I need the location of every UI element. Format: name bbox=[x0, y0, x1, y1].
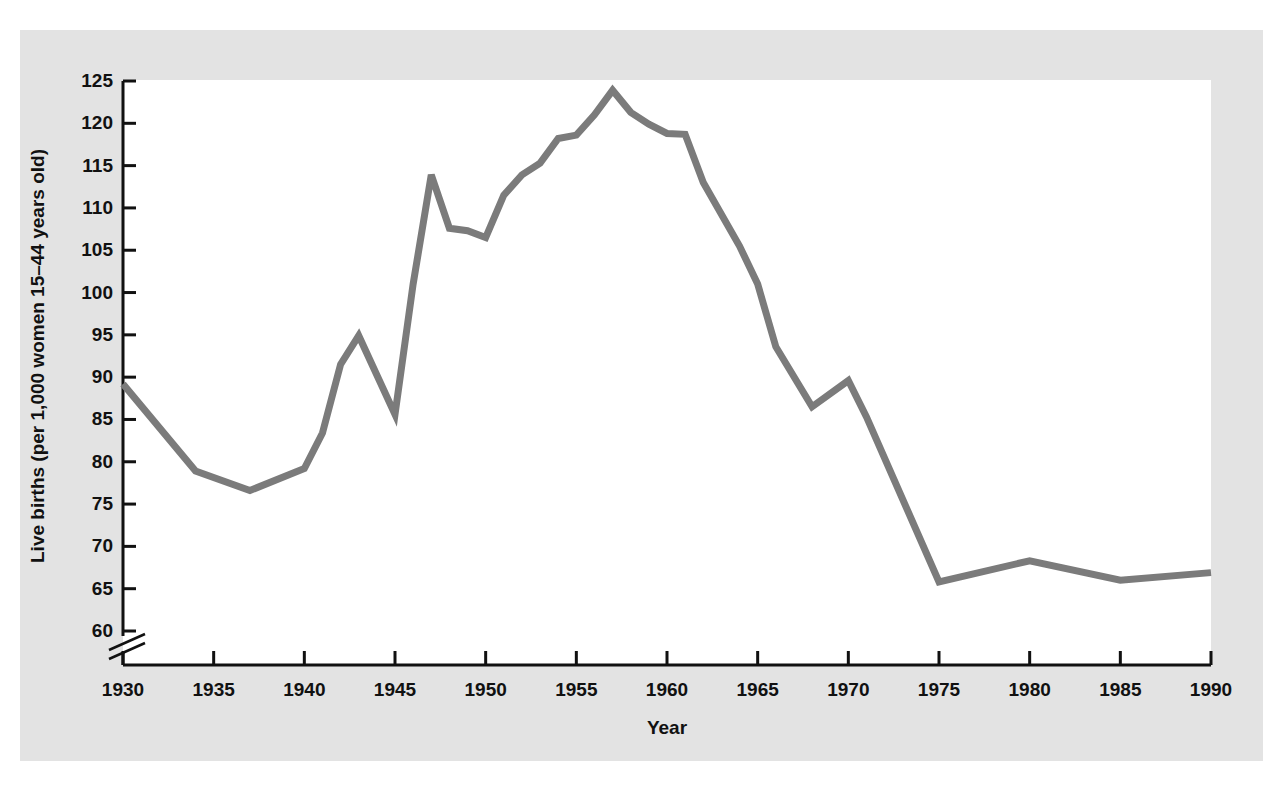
y-tick-label: 105 bbox=[61, 239, 113, 261]
x-tick-label: 1985 bbox=[1099, 679, 1141, 701]
x-tick-label: 1960 bbox=[646, 679, 688, 701]
x-tick-label: 1940 bbox=[283, 679, 325, 701]
y-tick-label: 120 bbox=[61, 112, 113, 134]
x-tick-label: 1990 bbox=[1190, 679, 1232, 701]
x-tick-label: 1975 bbox=[918, 679, 960, 701]
figure-root: 6065707580859095100105110115120125 19301… bbox=[0, 0, 1282, 789]
y-tick-label: 115 bbox=[61, 155, 113, 177]
plot-canvas bbox=[123, 80, 1211, 665]
x-axis-title: Year bbox=[647, 717, 687, 739]
y-tick-label: 95 bbox=[61, 324, 113, 346]
y-axis-title: Live births (per 1,000 women 15–44 years… bbox=[27, 149, 49, 563]
y-tick-label: 85 bbox=[61, 408, 113, 430]
x-tick-label: 1935 bbox=[193, 679, 235, 701]
x-tick-label: 1970 bbox=[827, 679, 869, 701]
y-tick-label: 80 bbox=[61, 451, 113, 473]
x-tick-label: 1955 bbox=[555, 679, 597, 701]
y-tick-label: 90 bbox=[61, 366, 113, 388]
y-tick-label: 60 bbox=[61, 620, 113, 642]
x-tick-label: 1930 bbox=[102, 679, 144, 701]
x-tick-label: 1950 bbox=[465, 679, 507, 701]
y-tick-label: 125 bbox=[61, 70, 113, 92]
x-tick-label: 1945 bbox=[374, 679, 416, 701]
y-tick-label: 75 bbox=[61, 493, 113, 515]
y-tick-label: 70 bbox=[61, 535, 113, 557]
y-tick-label: 65 bbox=[61, 578, 113, 600]
x-tick-label: 1980 bbox=[1009, 679, 1051, 701]
x-tick-label: 1965 bbox=[737, 679, 779, 701]
y-tick-label: 110 bbox=[61, 197, 113, 219]
y-tick-label: 100 bbox=[61, 282, 113, 304]
